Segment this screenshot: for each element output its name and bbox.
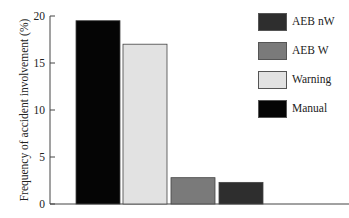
- legend-label: AEB nW: [292, 15, 334, 27]
- bar-warning: [123, 44, 167, 204]
- legend-swatch: [258, 13, 287, 31]
- legend-label: Manual: [292, 102, 327, 114]
- y-tick-label: 20: [34, 10, 46, 22]
- bar-aeb-nw: [219, 182, 263, 204]
- y-tick-label: 5: [39, 151, 45, 163]
- legend-swatch: [258, 42, 287, 60]
- legend-swatch: [258, 71, 287, 89]
- bar-manual: [76, 21, 120, 204]
- legend-item-aeb-nw: AEB nW: [258, 13, 348, 35]
- legend-label: AEB W: [292, 44, 329, 56]
- y-tick-label: 15: [34, 57, 46, 69]
- bars: [76, 21, 263, 204]
- legend-item-warning: Warning: [258, 71, 348, 93]
- bar-aeb-w: [171, 178, 215, 204]
- y-tick-label: 0: [39, 198, 45, 210]
- legend-label: Warning: [292, 73, 331, 85]
- y-axis-label: Frequency of accident involvement (%): [18, 15, 30, 205]
- legend-item-aeb-w: AEB W: [258, 42, 348, 64]
- legend-swatch: [258, 100, 287, 118]
- y-tick-label: 10: [34, 104, 46, 116]
- legend-item-manual: Manual: [258, 100, 348, 122]
